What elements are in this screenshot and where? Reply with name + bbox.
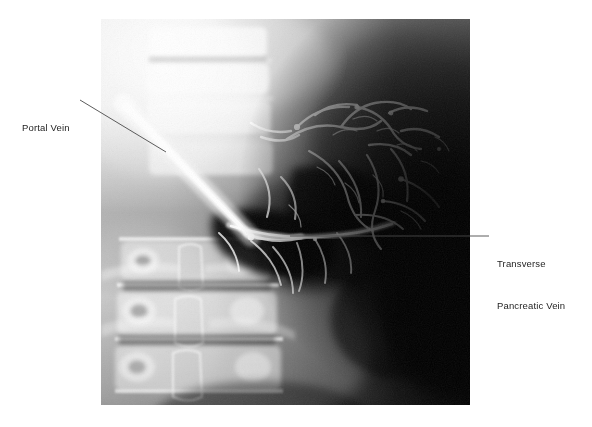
figure-root: Portal Vein Transverse Pancreatic Vein xyxy=(0,0,592,427)
film-grain xyxy=(101,19,470,405)
annotation-text-line-1: Transverse xyxy=(497,257,565,271)
annotation-label-portal-vein: Portal Vein xyxy=(22,93,70,163)
annotation-label-transverse-pancreatic-vein: Transverse Pancreatic Vein xyxy=(497,229,565,341)
annotation-text-line-1: Portal Vein xyxy=(22,121,70,135)
annotation-text-line-2: Pancreatic Vein xyxy=(497,299,565,313)
radiograph-canvas xyxy=(101,19,470,405)
radiograph-image xyxy=(101,19,470,405)
